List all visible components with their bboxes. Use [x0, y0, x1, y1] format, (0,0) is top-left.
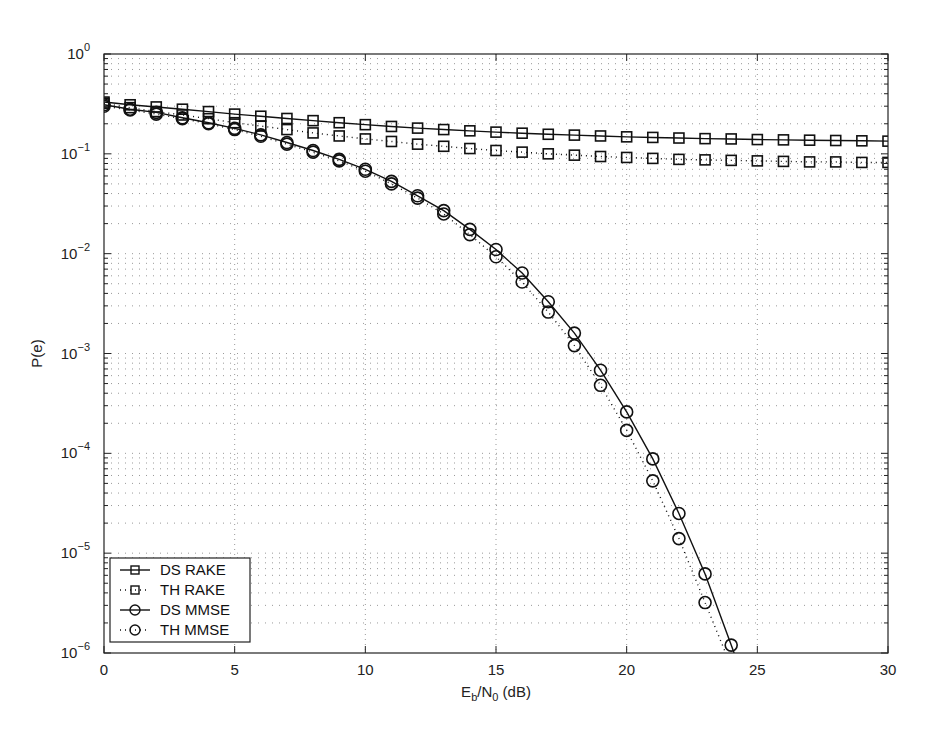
y-tick-label: 10−2 — [61, 241, 90, 262]
legend-label: DS RAKE — [160, 561, 226, 578]
square-marker — [857, 157, 867, 167]
square-marker — [596, 152, 606, 162]
x-axis-label: Eb/N0 (dB) — [461, 683, 531, 703]
x-tick-label: 15 — [488, 661, 505, 678]
x-tick-label: 0 — [100, 661, 108, 678]
x-tick-label: 25 — [749, 661, 766, 678]
series-th-rake — [99, 98, 893, 167]
legend: DS RAKETH RAKEDS MMSETH MMSE — [110, 558, 250, 642]
legend-label: TH RAKE — [160, 581, 225, 598]
svg-text:P(e): P(e) — [28, 339, 45, 367]
square-marker — [674, 154, 684, 164]
y-tick-label: 100 — [67, 41, 90, 62]
square-marker — [569, 150, 579, 160]
y-tick-label: 10−5 — [61, 540, 90, 561]
y-tick-label: 10−3 — [61, 341, 90, 362]
y-tick-label: 10−1 — [61, 141, 90, 162]
square-marker — [517, 147, 527, 157]
square-marker — [439, 141, 449, 151]
x-tick-label: 10 — [357, 661, 374, 678]
square-marker — [413, 139, 423, 149]
legend-label: DS MMSE — [160, 601, 230, 618]
x-tick-label: 30 — [880, 661, 897, 678]
circle-marker — [647, 475, 659, 487]
square-marker — [308, 128, 318, 138]
x-tick-label: 20 — [618, 661, 635, 678]
y-tick-label: 10−6 — [61, 640, 90, 661]
x-tick-label: 5 — [230, 661, 238, 678]
y-tick-label: 10−4 — [61, 440, 90, 461]
circle-marker — [595, 379, 607, 391]
circle-marker — [516, 276, 528, 288]
circle-marker — [699, 597, 711, 609]
square-marker — [282, 125, 292, 135]
legend-label: TH MMSE — [160, 621, 229, 638]
square-marker — [778, 156, 788, 166]
y-axis-label: P(e) — [28, 339, 45, 367]
ber-chart: 05101520253010−610−510−410−310−210−1100 … — [0, 0, 937, 742]
circle-marker — [490, 251, 502, 263]
